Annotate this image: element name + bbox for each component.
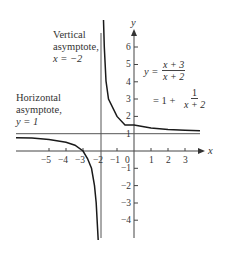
y-axis-arrow-icon [131, 29, 137, 36]
x-tick-label: −5 [41, 155, 51, 165]
y-tick-label: −2 [121, 181, 131, 191]
curve-left-branch [16, 138, 98, 240]
equation-fraction-2: 1 x + 2 [183, 87, 206, 110]
y-tick-label: 6 [126, 42, 131, 52]
horizontal-asymptote-label-line1: Horizontal [16, 92, 62, 104]
y-tick-label: −3 [121, 198, 131, 208]
y-tick-label: 4 [126, 77, 131, 87]
vertical-asymptote-label-line2: asymptote, [53, 41, 99, 53]
equation-fraction-1-numerator: x + 3 [162, 59, 185, 71]
x-tick-label: −3 [75, 155, 85, 165]
horizontal-asymptote-label: Horizontal asymptote, y = 1 [16, 92, 62, 128]
x-axis-arrow-icon [198, 148, 205, 154]
y-tick-label: 5 [126, 59, 131, 69]
x-axis-label: x [208, 145, 213, 157]
horizontal-asymptote-label-line3: y = 1 [16, 116, 62, 128]
x-tick-label: −2 [93, 155, 103, 165]
vertical-asymptote-label: Vertical asymptote, x = −2 [53, 29, 99, 65]
vertical-asymptote-label-line3: x = −2 [53, 53, 99, 65]
y-tick-label: −4 [121, 215, 131, 225]
y-tick-label: −1 [121, 163, 131, 173]
x-tick-label: 3 [183, 155, 188, 165]
y-axis-label: y [131, 17, 136, 29]
equation-fraction-2-denominator: x + 2 [183, 99, 206, 110]
y-tick-label: 2 [126, 111, 131, 121]
x-tick-label: 1 [149, 155, 154, 165]
equation-fraction-1-denominator: x + 2 [162, 71, 185, 82]
y-tick-label: 1 [126, 129, 131, 139]
x-tick-label: −1 [110, 155, 120, 165]
horizontal-asymptote-label-line2: asymptote, [16, 104, 62, 116]
equation-lhs: y = [144, 66, 158, 78]
equation-second-line: = 1 + [153, 95, 175, 107]
x-tick-label: −4 [58, 155, 68, 165]
vertical-asymptote-label-line1: Vertical [53, 29, 99, 41]
x-tick-label: 2 [166, 155, 171, 165]
y-tick-label: 3 [126, 94, 131, 104]
equation-fraction-1: x + 3 x + 2 [162, 59, 185, 82]
equation-fraction-2-numerator: 1 [191, 87, 198, 99]
